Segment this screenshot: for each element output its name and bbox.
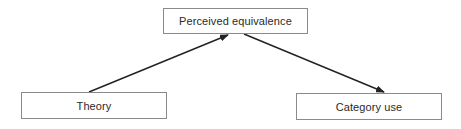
arrow-perceived-equivalence-to-category-use	[244, 34, 384, 92]
node-label: Category use	[336, 101, 403, 113]
node-label: Theory	[77, 100, 112, 112]
node-theory: Theory	[21, 92, 167, 119]
node-category-use: Category use	[296, 93, 442, 120]
node-perceived-equivalence: Perceived equivalence	[163, 8, 308, 34]
arrow-theory-to-perceived-equivalence	[89, 35, 228, 92]
diagram-canvas: Perceived equivalence Theory Category us…	[0, 0, 461, 129]
node-label: Perceived equivalence	[179, 15, 292, 27]
